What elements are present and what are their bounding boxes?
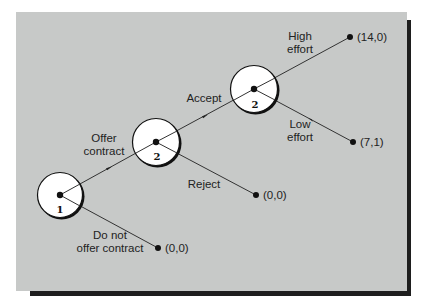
label-offer-contract-line1: Offer xyxy=(91,132,117,144)
player-label-node-2: 2 xyxy=(154,151,161,162)
figure: 1 2 2 (0,0) (0,0) (14,0) (7,1) Offer con… xyxy=(0,0,425,307)
label-high-effort-line2: effort xyxy=(287,43,314,55)
node-dot xyxy=(251,86,257,92)
label-offer-contract-line2: contract xyxy=(84,145,126,157)
terminal-dot xyxy=(350,139,356,145)
node-dot xyxy=(153,139,159,145)
label-do-not-offer-line1: Do not xyxy=(93,229,128,241)
node-dots xyxy=(57,86,257,198)
label-low-effort-line2: effort xyxy=(287,131,314,143)
terminal-dot xyxy=(253,192,259,198)
label-do-not-offer-line2: offer contract xyxy=(77,242,145,254)
label-accept: Accept xyxy=(186,92,222,104)
payoff-high-effort: (14,0) xyxy=(357,31,387,43)
payoff-do-not-offer: (0,0) xyxy=(165,242,189,254)
payoff-low-effort: (7,1) xyxy=(360,136,384,148)
label-low-effort-line1: Low xyxy=(289,118,311,130)
terminal-dot xyxy=(347,34,353,40)
player-label-node-1: 1 xyxy=(57,204,64,215)
node-dot xyxy=(57,192,63,198)
game-tree: 1 2 2 (0,0) (0,0) (14,0) (7,1) Offer con… xyxy=(0,0,425,307)
label-reject: Reject xyxy=(188,178,221,190)
terminal-dot xyxy=(155,245,161,251)
player-label-node-3: 2 xyxy=(252,99,259,110)
arrowhead-icon xyxy=(106,167,112,171)
payoff-reject: (0,0) xyxy=(263,189,287,201)
label-high-effort-line1: High xyxy=(288,30,312,42)
